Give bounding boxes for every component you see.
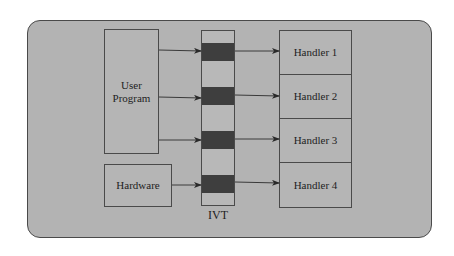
arrow-user-to-ivt-1 [159,50,201,51]
arrow-user-to-ivt-2 [159,97,201,98]
arrow-ivt-2-to-handler-2 [235,95,279,96]
arrow-ivt-4-to-handler-4 [235,182,279,183]
arrows-layer [0,0,454,256]
